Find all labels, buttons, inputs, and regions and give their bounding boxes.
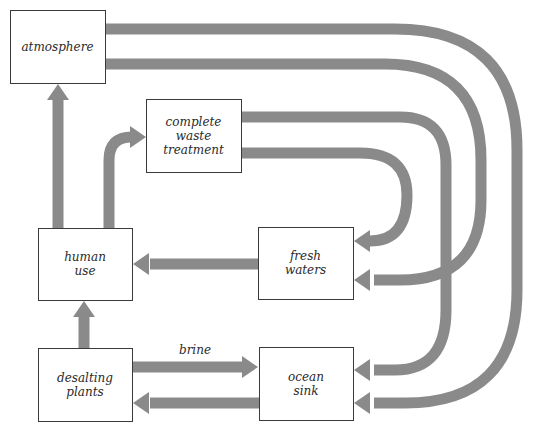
arrowhead-icon <box>354 359 370 381</box>
arrowhead-icon <box>130 126 146 148</box>
node-label: atmosphere <box>21 40 93 54</box>
edge-label-desalting-to-ocean: brine <box>179 343 211 357</box>
node-waste: completewastetreatment <box>147 100 242 173</box>
arrowhead-icon <box>133 392 149 414</box>
node-desalting: desaltingplants <box>39 349 133 422</box>
edge-labels: brine <box>179 343 211 357</box>
node-label: sink <box>294 384 319 398</box>
node-atmosphere: atmosphere <box>11 11 106 84</box>
flow-human-to-waste <box>109 126 146 228</box>
node-label: waters <box>285 263 326 277</box>
arrowhead-icon <box>133 253 149 275</box>
arrowhead-icon <box>354 230 370 252</box>
node-ocean: oceansink <box>260 348 354 421</box>
node-label: human <box>64 250 106 264</box>
node-label: complete <box>166 115 222 129</box>
flow-desalting-to-human <box>73 301 95 348</box>
node-label: treatment <box>163 143 224 157</box>
node-label: waste <box>176 129 212 143</box>
arrowhead-icon <box>73 301 95 317</box>
water-cycle-diagram: atmospherecompletewastetreatmenthumanuse… <box>0 0 544 435</box>
node-label: plants <box>66 385 103 399</box>
node-label: desalting <box>57 371 113 385</box>
arrowhead-icon <box>47 84 69 100</box>
flow-fresh-to-human <box>133 253 258 275</box>
node-label: use <box>75 264 96 278</box>
node-label: fresh <box>289 249 321 263</box>
node-fresh: freshwaters <box>259 228 354 300</box>
node-label: ocean <box>288 370 324 384</box>
node-human: humanuse <box>39 229 133 301</box>
arrowhead-icon <box>354 269 370 291</box>
arrowhead-icon <box>242 356 258 378</box>
flow-line <box>109 137 132 228</box>
flow-ocean-to-desalting <box>133 392 259 414</box>
flow-desalting-to-ocean <box>132 356 258 378</box>
arrowhead-icon <box>354 392 370 414</box>
flow-human-to-atmosphere <box>47 84 69 228</box>
